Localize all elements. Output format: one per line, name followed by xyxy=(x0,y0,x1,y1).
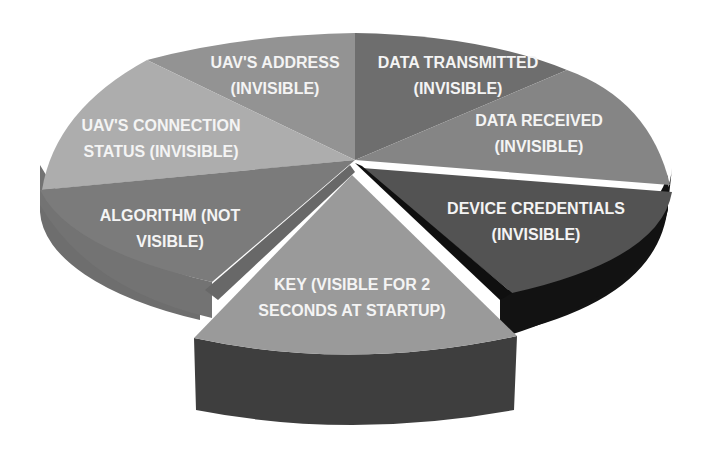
label-data-transmitted-2: (INVISIBLE) xyxy=(414,80,503,97)
label-device-credentials: DEVICE CREDENTIALS xyxy=(447,200,625,217)
label-device-credentials-2: (INVISIBLE) xyxy=(492,226,581,243)
label-key: KEY (VISIBLE FOR 2 xyxy=(274,276,430,293)
label-uav-connection-status-2: STATUS (INVISIBLE) xyxy=(84,143,239,160)
label-data-transmitted: DATA TRANSMITTED xyxy=(378,54,539,71)
pie-chart: UAV'S ADDRESS (INVISIBLE) DATA TRANSMITT… xyxy=(0,0,702,456)
label-data-received: DATA RECEIVED xyxy=(475,112,603,129)
label-uav-address: UAV'S ADDRESS xyxy=(210,54,339,71)
label-data-received-2: (INVISIBLE) xyxy=(495,138,584,155)
label-key-2: SECONDS AT STARTUP) xyxy=(258,302,445,319)
label-algorithm-2: VISIBLE) xyxy=(136,233,204,250)
label-algorithm: ALGORITHM (NOT xyxy=(100,207,241,224)
label-uav-connection-status: UAV'S CONNECTION xyxy=(81,117,240,134)
label-uav-address-2: (INVISIBLE) xyxy=(231,80,320,97)
